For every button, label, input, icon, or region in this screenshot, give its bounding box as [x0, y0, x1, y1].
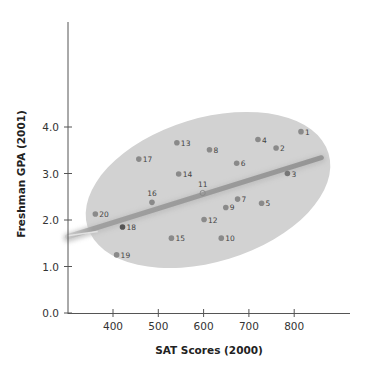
scatter-chart: 0.01.02.03.04.0 400500600700800 12345678… [0, 0, 369, 374]
point-label: 1 [305, 128, 310, 137]
x-tick-label: 700 [239, 320, 259, 332]
x-axis: 400500600700800 [68, 309, 350, 332]
point-label: 4 [262, 136, 267, 145]
point-label: 13 [181, 139, 191, 148]
point-label: 2 [280, 144, 285, 153]
point-label: 10 [225, 234, 235, 243]
y-tick-label: 2.0 [42, 214, 59, 226]
point-label: 3 [291, 170, 296, 179]
y-tick-label: 0.0 [42, 307, 59, 319]
x-axis-title: SAT Scores (2000) [155, 344, 263, 356]
point-label: 7 [242, 195, 247, 204]
point-label: 9 [230, 203, 235, 212]
point-label: 5 [266, 199, 271, 208]
y-axis-title: Freshman GPA (2001) [15, 110, 27, 238]
data-point: 19 [114, 251, 131, 260]
y-axis: 0.01.02.03.04.0 [42, 22, 72, 319]
y-tick-label: 3.0 [42, 168, 59, 180]
point-label: 8 [213, 146, 218, 155]
point-label: 18 [127, 223, 137, 232]
y-tick-label: 1.0 [42, 261, 59, 273]
point-label: 17 [143, 155, 153, 164]
point-label: 20 [99, 210, 109, 219]
point-label: 12 [208, 216, 218, 225]
point-label: 14 [183, 170, 193, 179]
x-tick-label: 600 [194, 320, 214, 332]
point-label: 16 [147, 189, 157, 198]
x-tick-label: 400 [103, 320, 123, 332]
point-label: 15 [175, 234, 185, 243]
x-tick-label: 500 [148, 320, 168, 332]
point-label: 6 [241, 159, 246, 168]
point-label: 11 [198, 180, 208, 189]
y-tick-label: 4.0 [42, 121, 59, 133]
point-label: 19 [121, 251, 131, 260]
x-tick-label: 800 [284, 320, 304, 332]
